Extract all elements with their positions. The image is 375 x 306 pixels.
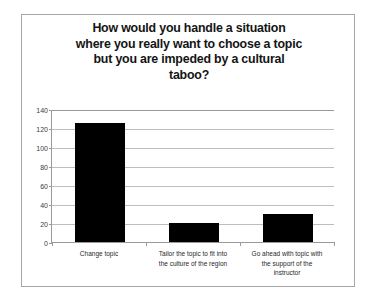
x-axis-tick-mark — [52, 242, 53, 246]
x-axis-tick-mark — [146, 242, 147, 246]
bar[interactable] — [75, 123, 125, 242]
x-axis-category-label: Change topic — [52, 249, 146, 278]
bar[interactable] — [169, 223, 219, 242]
y-tick-mark-100 — [49, 148, 52, 149]
y-axis-tick-label: 140 — [36, 107, 48, 114]
chart-frame: How would you handle a situation where y… — [21, 14, 355, 287]
bar-slot — [241, 110, 335, 242]
y-tick-mark-40 — [49, 205, 52, 206]
x-axis-category-label-line: Go ahead with topic with — [242, 249, 332, 259]
x-axis-category-label-line: the culture of the region — [148, 259, 238, 269]
y-axis-tick-label: 20 — [40, 221, 48, 228]
plot-area: 020406080100120140 — [51, 110, 334, 243]
x-axis-category-label-line: Tailor the topic to fit into — [148, 249, 238, 259]
chart-title: How would you handle a situation where y… — [32, 21, 346, 83]
y-axis-tick-label: 120 — [36, 126, 48, 133]
bar-slot — [147, 110, 241, 242]
chart-title-line-1: How would you handle a situation — [32, 21, 346, 37]
y-tick-mark-120 — [49, 129, 52, 130]
bar[interactable] — [263, 214, 313, 243]
x-axis-tick-mark — [334, 242, 335, 246]
y-tick-mark-20 — [49, 224, 52, 225]
bars-group — [53, 110, 335, 242]
x-axis-labels: Change topicTailor the topic to fit into… — [52, 249, 334, 278]
x-axis-tick-mark — [240, 242, 241, 246]
x-axis-category-label-line: the support of the — [242, 259, 332, 269]
y-axis-tick-label: 100 — [36, 145, 48, 152]
chart-title-line-2: where you really want to choose a topic — [32, 37, 346, 53]
y-tick-mark-60 — [49, 186, 52, 187]
x-axis-category-label: Tailor the topic to fit intothe culture … — [146, 249, 240, 278]
x-axis-category-label: Go ahead with topic withthe support of t… — [240, 249, 334, 278]
y-axis-tick-label: 60 — [40, 183, 48, 190]
y-axis-tick-label: 0 — [44, 240, 48, 247]
y-axis-tick-label: 80 — [40, 164, 48, 171]
y-tick-mark-80 — [49, 167, 52, 168]
y-axis-tick-label: 40 — [40, 202, 48, 209]
chart-title-line-3: but you are impeded by a cultural — [32, 52, 346, 68]
bar-slot — [53, 110, 147, 242]
y-tick-mark-140 — [49, 110, 52, 111]
x-axis-category-label-line: Change topic — [54, 249, 144, 259]
x-axis-category-label-line: instructor — [242, 268, 332, 278]
chart-title-line-4: taboo? — [32, 68, 346, 84]
